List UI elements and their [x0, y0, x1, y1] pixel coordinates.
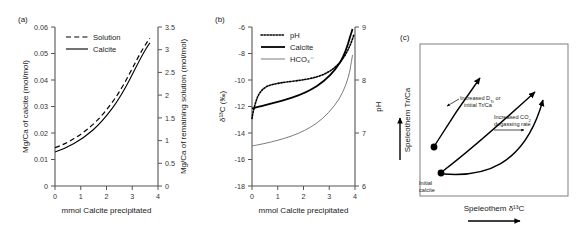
panel-b-legend: pH Calcite HCO₃⁻ — [261, 31, 314, 64]
panel-a-ytick-5: 0.05 — [34, 49, 48, 58]
panel-b-curve-calcite — [252, 29, 353, 109]
panel-a-ytick-right-7: 3.5 — [165, 23, 175, 32]
panel-a-plot: (a) 0 0.01 0.02 0.03 0.04 0.05 0.06 — [0, 0, 195, 231]
panel-a-ytick-0: 0 — [44, 182, 48, 191]
panel-b-ytick-6: -6 — [239, 23, 245, 32]
panel-a-ytick-2: 0.02 — [34, 129, 48, 138]
panel-a-ytick-right-5: 2.5 — [165, 68, 175, 77]
panel-b-xlabel: mmol Calcite precipitated — [259, 206, 349, 215]
panel-b-ytick-right-3: 9 — [362, 23, 366, 32]
panel-a-xtick-0: 0 — [53, 192, 57, 201]
panel-a-ylabel-right: Mg/Ca of remaining solution (mol/mol) — [179, 39, 188, 174]
panel-a-xtick-3: 3 — [130, 192, 134, 201]
panel-a-x-ticks: 0 1 2 3 4 — [53, 186, 160, 201]
panel-c-tag: (c) — [400, 33, 410, 42]
panel-c-ylabel: Speleothem Tr/Ca — [403, 87, 412, 152]
panel-a-ytick-right-3: 1.5 — [165, 114, 175, 123]
panel-b-ytick-0: -18 — [235, 182, 245, 191]
initial-calcite-label-line2: calcite — [419, 187, 435, 193]
panel-b-xtick-4: 4 — [353, 192, 357, 201]
panel-b-xtick-1: 1 — [276, 192, 280, 201]
panel-a-ylabel-left: Mg/Ca of calcite (mol/mol) — [21, 60, 30, 153]
panel-a-tag: (a) — [18, 15, 28, 24]
steep-trend-arrow — [435, 78, 480, 145]
panel-b-xtick-2: 2 — [302, 192, 306, 201]
panel-b-ytick-3: -12 — [235, 102, 245, 111]
panel-b-ytick-2: -14 — [235, 129, 245, 138]
panel-b-ytick-right-0: 6 — [362, 182, 366, 191]
panel-a-ytick-right-6: 3 — [165, 45, 169, 54]
panel-c-diagram: (c) Speleothem Tr/Ca Speleothem δ¹³C Inc… — [390, 0, 585, 231]
panel-b-ytick-1: -16 — [235, 155, 245, 164]
panel-a-legend: Solution Calcite — [66, 33, 120, 54]
shallow-trend-arrow — [444, 100, 543, 174]
panel-a-ytick-4: 0.04 — [34, 76, 48, 85]
panel-b-legend-label-ph: pH — [290, 31, 300, 40]
initial-calcite-upper-dot — [431, 144, 438, 151]
panel-b-ytick-right-1: 7 — [362, 129, 366, 138]
panel-a-ytick-right-2: 1 — [165, 136, 169, 145]
panel-b-xtick-3: 3 — [327, 192, 331, 201]
panel-b-xtick-0: 0 — [250, 192, 254, 201]
panel-a-curve-solution — [55, 38, 150, 147]
panel-a-ytick-right-0: 0 — [165, 182, 169, 191]
panel-a-curve-calcite — [55, 43, 150, 152]
panel-a-ytick-3: 0.03 — [34, 102, 48, 111]
panel-b-ytick-right-2: 8 — [362, 76, 366, 85]
panel-b-right-ticks: 6 7 8 9 — [355, 23, 366, 191]
figure-container: (a) 0 0.01 0.02 0.03 0.04 0.05 0.06 — [0, 0, 585, 231]
panel-a-right-ticks: 0 0.5 1 1.5 2 2.5 3 3.5 — [158, 23, 175, 191]
panel-b-legend-label-calcite: Calcite — [290, 43, 313, 52]
panel-a-xtick-2: 2 — [105, 192, 109, 201]
initial-calcite-label-line1: Initial — [419, 180, 432, 186]
panel-a-ytick-6: 0.06 — [34, 23, 48, 32]
annotation-increased-dtr-line2: initial Tr/Ca — [464, 102, 493, 108]
panel-a-xlabel: mmol Calcite precipitated — [62, 206, 152, 215]
panel-c: (c) Speleothem Tr/Ca Speleothem δ¹³C Inc… — [390, 0, 585, 231]
panel-a-ytick-right-4: 2 — [165, 91, 169, 100]
annotation-1-leader — [447, 99, 459, 106]
panel-b-x-ticks: 0 1 2 3 4 — [250, 186, 357, 201]
panel-b-plot: (b) -18 -16 -14 -12 -10 -8 -6 — [195, 0, 390, 231]
panel-b: (b) -18 -16 -14 -12 -10 -8 -6 — [195, 0, 390, 231]
panel-b-ytick-5: -8 — [239, 49, 245, 58]
panel-a-ytick-1: 0.01 — [34, 155, 48, 164]
panel-b-legend-label-hco3: HCO₃⁻ — [290, 55, 314, 64]
panel-a: (a) 0 0.01 0.02 0.03 0.04 0.05 0.06 — [0, 0, 195, 231]
panel-b-ylabel-right: pH — [374, 101, 383, 111]
panel-b-left-ticks: -18 -16 -14 -12 -10 -8 -6 — [235, 23, 252, 191]
panel-b-curve-hco3 — [252, 55, 353, 146]
panel-a-ytick-right-1: 0.5 — [165, 159, 175, 168]
panel-a-xtick-1: 1 — [79, 192, 83, 201]
panel-b-ylabel-left: δ¹³C (‰) — [218, 91, 227, 122]
panel-b-tag: (b) — [215, 15, 225, 24]
panel-a-xtick-4: 4 — [156, 192, 160, 201]
panel-a-legend-label-calcite: Calcite — [93, 45, 116, 54]
panel-a-legend-label-solution: Solution — [93, 33, 120, 42]
panel-c-xlabel: Speleothem δ¹³C — [464, 204, 525, 213]
panel-b-ytick-4: -10 — [235, 76, 245, 85]
annotation-increased-co2-line2: degassing rate — [494, 121, 531, 127]
panel-a-left-ticks: 0 0.01 0.02 0.03 0.04 0.05 0.06 — [34, 23, 55, 191]
